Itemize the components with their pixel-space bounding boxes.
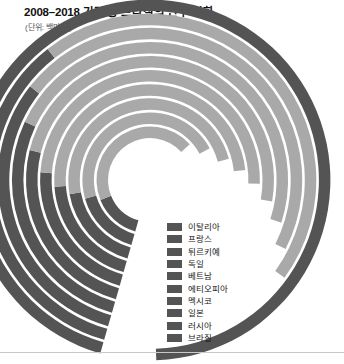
- legend-swatch: [167, 223, 182, 231]
- legend-swatch: [167, 322, 182, 330]
- legend-swatch: [167, 272, 182, 280]
- legend-swatch: [167, 297, 182, 305]
- legend-swatch: [167, 235, 182, 243]
- legend-item-label: 브라질: [188, 332, 212, 344]
- legend-item-label: 베트남: [188, 270, 212, 282]
- ring-멕시코[interactable]: [12, 42, 288, 313]
- legend-item[interactable]: 베트남: [167, 270, 228, 282]
- legend-swatch: [167, 285, 182, 293]
- chart-legend: 이탈리아프랑스튀르키예독일베트남에티오피아멕시코일본러시아브라질: [167, 221, 228, 344]
- legend-item[interactable]: 이탈리아: [167, 221, 228, 233]
- legend-item[interactable]: 독일: [167, 258, 228, 270]
- legend-item[interactable]: 멕시코: [167, 295, 228, 307]
- legend-item-label: 튀르키예: [188, 246, 220, 258]
- legend-swatch: [167, 248, 182, 256]
- legend-item-label: 러시아: [188, 320, 212, 332]
- chart-container: 2008–2018 기간 중 브라질의 인구 변화 (단위: 백만 명) 이탈리…: [0, 0, 344, 364]
- legend-item[interactable]: 프랑스: [167, 233, 228, 245]
- legend-item-label: 에티오피아: [188, 283, 228, 295]
- legend-item[interactable]: 러시아: [167, 319, 228, 331]
- legend-item[interactable]: 튀르키예: [167, 246, 228, 258]
- legend-item[interactable]: 일본: [167, 307, 228, 319]
- legend-item-label: 멕시코: [188, 295, 212, 307]
- ring-이탈리아[interactable]: [96, 126, 189, 231]
- legend-item-label: 프랑스: [188, 233, 212, 245]
- legend-item-label: 이탈리아: [188, 221, 220, 233]
- legend-swatch: [167, 260, 182, 268]
- footer-divider: [0, 352, 344, 353]
- legend-item-label: 독일: [188, 258, 204, 270]
- legend-item[interactable]: 브라질: [167, 332, 228, 344]
- legend-swatch: [167, 334, 182, 342]
- legend-item-label: 일본: [188, 307, 204, 319]
- legend-item[interactable]: 에티오피아: [167, 282, 228, 294]
- legend-swatch: [167, 309, 182, 317]
